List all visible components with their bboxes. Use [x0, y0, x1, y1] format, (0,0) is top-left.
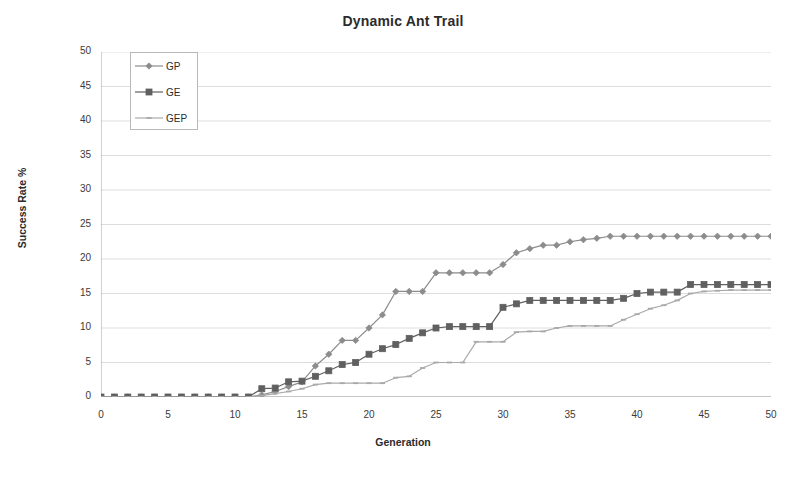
data-marker — [634, 291, 640, 297]
y-axis-label: Success Rate % — [16, 148, 28, 268]
legend-label: GE — [166, 87, 180, 98]
y-tick-label: 50 — [59, 45, 91, 56]
y-tick-label: 45 — [59, 80, 91, 91]
x-tick-label: 30 — [483, 409, 523, 420]
data-marker — [714, 233, 720, 239]
data-marker — [446, 270, 452, 276]
series-line — [101, 285, 771, 397]
data-marker — [687, 233, 693, 239]
data-marker — [446, 324, 452, 330]
y-tick-label: 5 — [59, 356, 91, 367]
data-marker — [366, 351, 372, 357]
data-marker — [755, 282, 761, 288]
series-ge — [101, 282, 771, 397]
y-tick-label: 25 — [59, 218, 91, 229]
data-marker — [312, 373, 318, 379]
plot-area — [101, 52, 771, 397]
y-tick-label: 30 — [59, 183, 91, 194]
data-marker — [741, 282, 747, 288]
x-tick-label: 15 — [282, 409, 322, 420]
data-marker — [486, 270, 492, 276]
data-marker — [272, 385, 278, 391]
y-tick-label: 20 — [59, 252, 91, 263]
data-marker — [768, 282, 771, 288]
data-marker — [339, 362, 345, 368]
legend-marker-icon — [134, 85, 164, 99]
legend-label: GEP — [166, 113, 187, 124]
data-marker — [473, 270, 479, 276]
series-line — [101, 290, 771, 397]
data-marker — [513, 301, 519, 307]
data-marker — [661, 233, 667, 239]
series-gp — [101, 233, 771, 397]
chart-container: Dynamic Ant Trail Success Rate % Generat… — [0, 0, 806, 478]
x-axis-label: Generation — [0, 436, 806, 448]
chart-title: Dynamic Ant Trail — [0, 13, 806, 29]
data-marker — [620, 233, 626, 239]
y-tick-label: 15 — [59, 287, 91, 298]
y-tick-label: 10 — [59, 321, 91, 332]
data-marker — [379, 346, 385, 352]
x-tick-label: 25 — [416, 409, 456, 420]
data-marker — [728, 233, 734, 239]
data-marker — [701, 233, 707, 239]
data-marker — [460, 324, 466, 330]
y-tick-label: 40 — [59, 114, 91, 125]
data-marker — [460, 270, 466, 276]
data-marker — [527, 245, 533, 251]
data-marker — [146, 63, 152, 69]
legend-item-ge[interactable]: GE — [131, 79, 199, 105]
legend-marker-icon — [134, 111, 164, 125]
data-marker — [527, 297, 533, 303]
y-tick-label: 35 — [59, 149, 91, 160]
data-marker — [553, 242, 559, 248]
data-marker — [420, 330, 426, 336]
legend-item-gp[interactable]: GP — [131, 53, 199, 79]
data-marker — [701, 282, 707, 288]
x-tick-label: 0 — [81, 409, 121, 420]
x-tick-label: 45 — [684, 409, 724, 420]
legend-marker-icon — [134, 59, 164, 73]
data-marker — [580, 236, 586, 242]
data-marker — [146, 89, 152, 95]
data-marker — [580, 297, 586, 303]
chart-legend: GPGEGEP — [130, 52, 198, 130]
data-marker — [406, 335, 412, 341]
data-marker — [594, 297, 600, 303]
data-marker — [647, 233, 653, 239]
x-tick-label: 20 — [349, 409, 389, 420]
data-marker — [607, 297, 613, 303]
data-marker — [299, 378, 305, 384]
data-marker — [661, 289, 667, 295]
data-marker — [353, 360, 359, 366]
x-tick-label: 40 — [617, 409, 657, 420]
data-marker — [714, 282, 720, 288]
data-marker — [567, 297, 573, 303]
data-marker — [594, 235, 600, 241]
x-tick-label: 35 — [550, 409, 590, 420]
data-marker — [634, 233, 640, 239]
data-marker — [540, 297, 546, 303]
data-marker — [286, 379, 292, 385]
data-marker — [326, 368, 332, 374]
data-marker — [259, 386, 265, 392]
data-marker — [607, 233, 613, 239]
data-marker — [674, 233, 680, 239]
data-marker — [688, 282, 694, 288]
data-marker — [647, 289, 653, 295]
data-marker — [741, 233, 747, 239]
data-marker — [500, 304, 506, 310]
y-tick-label: 0 — [59, 390, 91, 401]
data-marker — [473, 324, 479, 330]
data-marker — [393, 342, 399, 348]
x-tick-label: 10 — [215, 409, 255, 420]
legend-label: GP — [166, 61, 180, 72]
x-tick-label: 50 — [751, 409, 791, 420]
x-tick-label: 5 — [148, 409, 188, 420]
data-marker — [768, 233, 771, 239]
data-marker — [728, 282, 734, 288]
data-marker — [621, 295, 627, 301]
data-marker — [540, 242, 546, 248]
data-marker — [754, 233, 760, 239]
legend-item-gep[interactable]: GEP — [131, 105, 199, 131]
